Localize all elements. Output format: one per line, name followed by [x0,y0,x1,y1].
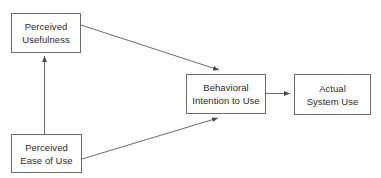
node-behavioral-intention-to-use-line1: Behavioral [203,81,248,94]
node-actual-system-use-line1: Actual [319,82,346,95]
node-perceived-usefulness: Perceived Usefulness [11,13,81,53]
edge-usefulness-to-intention [81,25,219,70]
node-behavioral-intention-to-use: Behavioral Intention to Use [186,74,266,114]
node-perceived-usefulness-line2: Usefulness [22,33,70,46]
node-perceived-ease-of-use-line1: Perceived [25,141,68,154]
node-perceived-ease-of-use-line2: Ease of Use [20,154,72,167]
edge-ease-of-use-to-intention [82,118,218,159]
node-perceived-ease-of-use: Perceived Ease of Use [11,134,82,173]
node-behavioral-intention-to-use-line2: Intention to Use [192,94,259,107]
diagram-canvas: Perceived Usefulness Perceived Ease of U… [0,0,381,178]
node-actual-system-use: Actual System Use [294,74,371,115]
node-perceived-usefulness-line1: Perceived [25,20,68,33]
node-actual-system-use-line2: System Use [307,95,359,108]
